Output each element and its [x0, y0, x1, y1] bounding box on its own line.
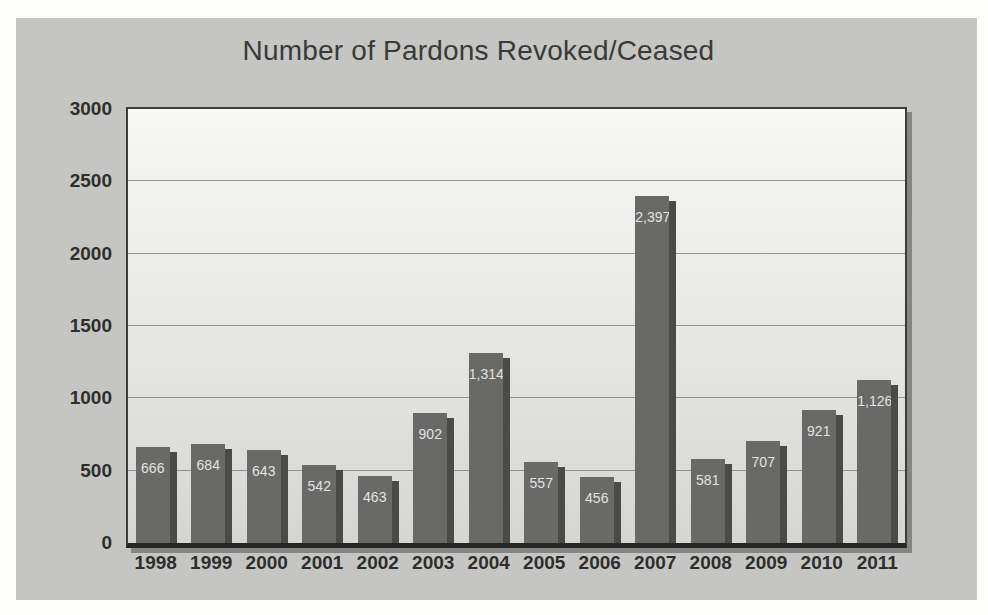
x-axis-tick-label: 2011: [849, 552, 905, 574]
chart-title: Number of Pardons Revoked/Ceased: [16, 35, 977, 67]
bar-2002: 463: [358, 476, 392, 543]
x-axis-tick-label: 2002: [350, 552, 406, 574]
gridline: [128, 180, 905, 181]
x-axis-tick-label: 2008: [683, 552, 739, 574]
scanned-page: Number of Pardons Revoked/Ceased 6666846…: [0, 0, 988, 615]
x-axis-tick-label: 2005: [516, 552, 572, 574]
x-axis-tick-label: 1998: [128, 552, 184, 574]
x-axis-tick-label: 2004: [461, 552, 517, 574]
y-axis-tick-label: 2000: [44, 243, 112, 265]
bar-2001: 542: [302, 465, 336, 543]
gridline: [128, 470, 905, 471]
bar-chart: Number of Pardons Revoked/Ceased 6666846…: [16, 18, 977, 600]
data-label: 921: [802, 423, 836, 439]
gridline: [128, 397, 905, 398]
bar-2000: 643: [247, 450, 281, 543]
bar-2007: 2,397: [635, 196, 669, 543]
data-label: 1,314: [469, 366, 503, 382]
bar-2005: 557: [524, 462, 558, 543]
x-axis-tick-label: 2010: [794, 552, 850, 574]
data-label: 557: [524, 475, 558, 491]
data-label: 2,397: [635, 209, 669, 225]
data-label: 684: [191, 457, 225, 473]
bar-2011: 1,126: [857, 380, 891, 543]
x-axis-tick-label: 2000: [239, 552, 295, 574]
gridline: [128, 253, 905, 254]
bar-2008: 581: [691, 459, 725, 543]
data-label: 542: [302, 478, 336, 494]
bar-2004: 1,314: [469, 353, 503, 543]
data-label: 463: [358, 489, 392, 505]
data-label: 1,126: [857, 393, 891, 409]
x-axis-tick-label: 2003: [405, 552, 461, 574]
bar-1999: 684: [191, 444, 225, 543]
gridline: [128, 325, 905, 326]
bar-1998: 666: [136, 447, 170, 543]
y-axis-tick-label: 1000: [44, 387, 112, 409]
y-axis-tick-label: 2500: [44, 170, 112, 192]
y-axis-tick-label: 3000: [44, 98, 112, 120]
data-label: 707: [746, 454, 780, 470]
data-label: 456: [580, 490, 614, 506]
x-axis-tick-label: 2007: [627, 552, 683, 574]
x-axis-tick-label: 2009: [738, 552, 794, 574]
x-axis-tick-label: 2001: [294, 552, 350, 574]
data-label: 902: [413, 426, 447, 442]
bar-2003: 902: [413, 413, 447, 543]
x-axis-tick-label: 1999: [183, 552, 239, 574]
plot-area: 6666846435424639021,3145574562,397581707…: [126, 107, 907, 548]
bar-2009: 707: [746, 441, 780, 543]
data-label: 581: [691, 472, 725, 488]
data-label: 643: [247, 463, 281, 479]
y-axis-tick-label: 500: [44, 460, 112, 482]
data-label: 666: [136, 460, 170, 476]
bar-2006: 456: [580, 477, 614, 543]
y-axis-tick-label: 1500: [44, 315, 112, 337]
bar-2010: 921: [802, 410, 836, 543]
y-axis-tick-label: 0: [44, 532, 112, 554]
x-axis-tick-label: 2006: [572, 552, 628, 574]
